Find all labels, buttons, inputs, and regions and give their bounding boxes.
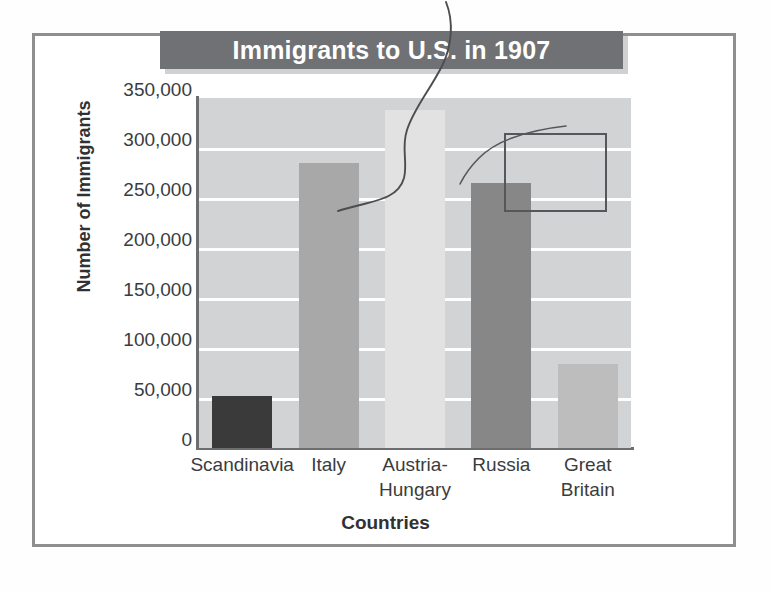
x-tick-label-line: Great Britain	[535, 452, 641, 502]
highlight-box-annotation	[504, 133, 607, 212]
x-axis-tick-labels: ScandinaviaItalyAustria-HungaryRussiaGre…	[199, 452, 639, 508]
bar	[558, 364, 618, 448]
bar	[299, 163, 359, 448]
y-tick-label: 150,000	[80, 279, 192, 301]
bar	[385, 110, 445, 448]
chart-title-banner: Immigrants to U.S. in 1907	[160, 31, 623, 69]
chart-figure: Immigrants to U.S. in 1907 Number of Imm…	[0, 0, 771, 593]
y-tick-label: 100,000	[80, 329, 192, 351]
y-tick-label: 250,000	[80, 179, 192, 201]
bar	[471, 183, 531, 448]
y-axis-tick-labels: 350,000300,000250,000200,000150,000100,0…	[80, 90, 192, 458]
y-tick-label: 300,000	[80, 129, 192, 151]
x-tick-label-line: Hungary	[362, 477, 468, 502]
bar	[212, 396, 272, 448]
x-axis-title: Countries	[0, 512, 771, 534]
y-tick-label: 50,000	[80, 379, 192, 401]
y-tick-label: 350,000	[80, 79, 192, 101]
y-tick-label: 0	[80, 429, 192, 451]
x-tick-label: Great Britain	[535, 452, 641, 502]
chart-title: Immigrants to U.S. in 1907	[233, 36, 551, 65]
y-tick-label: 200,000	[80, 229, 192, 251]
